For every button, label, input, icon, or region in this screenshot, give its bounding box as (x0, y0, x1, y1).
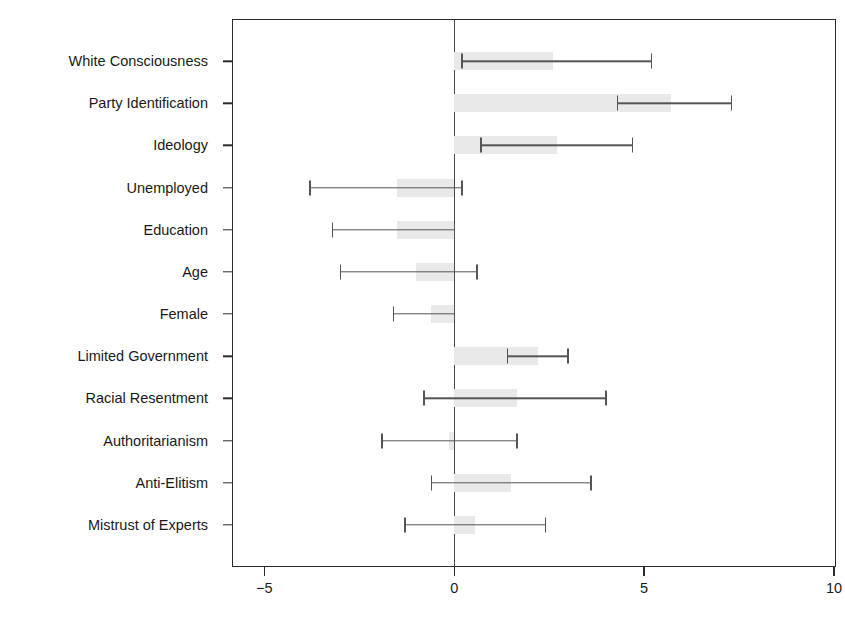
y-axis-label: Education (144, 223, 209, 238)
y-axis-tick (223, 482, 232, 483)
error-bar-line (340, 271, 477, 272)
x-axis-tick (833, 567, 834, 576)
y-axis-label: Authoritarianism (103, 433, 208, 448)
error-bar-cap-high (651, 54, 652, 69)
y-axis-tick (223, 229, 232, 230)
error-bar-cap-low (381, 433, 382, 448)
x-axis-tick-label: 5 (640, 581, 648, 596)
y-axis-label: Unemployed (127, 180, 208, 195)
y-axis-tick (223, 187, 232, 188)
error-bar-cap-low (480, 138, 481, 153)
error-bar-line (618, 103, 732, 104)
x-axis-tick-label: 10 (826, 581, 842, 596)
coefficient-plot: White ConsciousnessParty IdentificationI… (0, 0, 845, 625)
y-axis-tick (223, 313, 232, 314)
error-bar-cap-low (423, 391, 424, 406)
x-axis-tick (643, 567, 644, 576)
y-axis-label: Anti-Elitism (135, 475, 208, 490)
error-bar-cap-high (516, 433, 517, 448)
error-bar-cap-low (431, 475, 432, 490)
error-bar-line (431, 482, 591, 483)
error-bar-line (424, 398, 606, 399)
error-bar-line (481, 145, 633, 146)
error-bar-cap-high (461, 180, 462, 195)
error-bar-cap-high (567, 349, 568, 364)
error-bar-line (310, 187, 462, 188)
y-axis-label: Ideology (153, 138, 208, 153)
error-bar-cap-low (340, 264, 341, 279)
error-bar-cap-high (454, 222, 455, 237)
error-bar-cap-high (476, 264, 477, 279)
error-bar-cap-low (461, 54, 462, 69)
x-axis-tick (454, 567, 455, 576)
error-bar-cap-low (617, 96, 618, 111)
error-bar-cap-high (545, 517, 546, 532)
y-axis: White ConsciousnessParty IdentificationI… (0, 0, 222, 625)
error-bar-cap-high (605, 391, 606, 406)
error-bar-line (405, 524, 546, 525)
y-axis-tick (223, 60, 232, 61)
y-axis-tick (223, 398, 232, 399)
x-axis-tick (264, 567, 265, 576)
y-axis-label: Age (182, 265, 208, 280)
y-axis-tick (223, 524, 232, 525)
x-axis-tick-label: −5 (256, 581, 273, 596)
y-axis-label: White Consciousness (69, 54, 208, 69)
y-axis-label: Racial Resentment (86, 391, 209, 406)
error-bar-cap-low (393, 307, 394, 322)
y-axis-tick (223, 103, 232, 104)
y-axis-label: Mistrust of Experts (88, 518, 208, 533)
y-axis-label: Limited Government (77, 349, 208, 364)
error-bar-line (333, 229, 455, 230)
error-bar-cap-high (632, 138, 633, 153)
error-bar-line (462, 60, 652, 61)
error-bar-line (507, 356, 568, 357)
error-bar-cap-high (731, 96, 732, 111)
y-axis-tick (223, 145, 232, 146)
error-bar-cap-low (332, 222, 333, 237)
error-bar-line (393, 313, 454, 314)
error-bar-cap-low (507, 349, 508, 364)
error-bar-cap-high (590, 475, 591, 490)
y-axis-tick (223, 356, 232, 357)
y-axis-tick (223, 440, 232, 441)
y-axis-label: Female (160, 307, 208, 322)
error-bar-line (382, 440, 517, 441)
error-bar-cap-low (404, 517, 405, 532)
error-bar-cap-low (309, 180, 310, 195)
y-axis-tick (223, 271, 232, 272)
x-axis-tick-label: 0 (450, 581, 458, 596)
y-axis-label: Party Identification (89, 96, 208, 111)
error-bar-cap-high (454, 307, 455, 322)
